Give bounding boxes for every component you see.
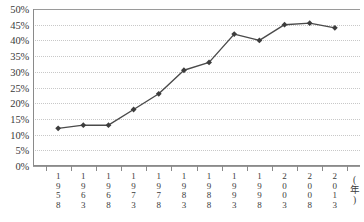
- y-tick-label: 20%: [10, 98, 29, 109]
- x-tick-label: 1968: [101, 172, 115, 210]
- x-tick-label: 1983: [177, 172, 191, 210]
- x-tick-mark: [297, 166, 298, 171]
- plot-area: [33, 9, 360, 166]
- x-tick-label: 1993: [227, 172, 241, 210]
- series-line: [58, 23, 335, 128]
- data-point-1958: [55, 125, 61, 131]
- x-tick-label: 1978: [152, 172, 166, 210]
- y-tick-label: 10%: [10, 129, 29, 140]
- y-axis: 50%45%40%35%30%25%20%15%10%5%0%: [0, 0, 32, 170]
- data-point-2013: [332, 25, 338, 31]
- y-tick-label: 15%: [10, 113, 29, 124]
- x-tick-mark: [322, 166, 323, 171]
- x-tick-label: 1963: [76, 172, 90, 210]
- y-tick-label: 30%: [10, 66, 29, 77]
- x-tick-label: 1973: [127, 172, 141, 210]
- x-tick-mark: [222, 166, 223, 171]
- x-tick-mark: [272, 166, 273, 171]
- y-tick-label: 50%: [10, 4, 29, 15]
- data-point-1963: [80, 122, 86, 128]
- y-tick-label: 5%: [15, 145, 29, 156]
- x-tick-mark: [46, 166, 47, 171]
- x-tick-label: 1958: [51, 172, 65, 210]
- x-tick-label: 1988: [202, 172, 216, 210]
- x-tick-mark: [247, 166, 248, 171]
- x-tick-mark: [146, 166, 147, 171]
- x-axis-unit-label: (年): [349, 175, 360, 205]
- x-tick-mark: [171, 166, 172, 171]
- x-tick-label: 2008: [303, 172, 317, 210]
- data-series: [33, 9, 360, 166]
- y-tick-label: 40%: [10, 35, 29, 46]
- y-tick-label: 0%: [15, 161, 29, 172]
- x-tick-mark: [197, 166, 198, 171]
- y-tick-label: 35%: [10, 51, 29, 62]
- x-tick-mark: [121, 166, 122, 171]
- data-point-2008: [307, 20, 313, 26]
- line-chart: 50%45%40%35%30%25%20%15%10%5%0% (年) 1958…: [0, 0, 364, 222]
- x-tick-label: 2013: [328, 172, 342, 210]
- y-tick-label: 25%: [10, 82, 29, 93]
- x-tick-label: 2003: [278, 172, 292, 210]
- x-tick-mark: [71, 166, 72, 171]
- x-tick-mark: [96, 166, 97, 171]
- x-tick-label: 1998: [252, 172, 266, 210]
- x-tick-mark: [347, 166, 348, 171]
- x-axis: (年) 195819631968197319781983198819931998…: [33, 172, 360, 222]
- y-tick-label: 45%: [10, 19, 29, 30]
